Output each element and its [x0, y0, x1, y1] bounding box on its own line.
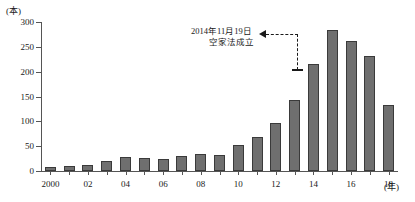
x-axis-tick-label: 18	[374, 180, 404, 189]
bar	[364, 56, 375, 171]
y-axis-tick	[36, 72, 41, 73]
x-axis-tick-label: 10	[223, 180, 253, 189]
bar	[308, 64, 319, 171]
x-axis-tick-label: 16	[336, 180, 366, 189]
x-axis-tick	[389, 171, 390, 175]
x-axis-tick	[220, 171, 221, 175]
x-axis-tick	[201, 171, 202, 175]
y-axis-tick-label: 200	[6, 68, 34, 77]
bar	[252, 137, 263, 171]
x-axis-tick	[144, 171, 145, 175]
x-axis-tick-label: 04	[111, 180, 141, 189]
annotation-line-1: 2014年11月19日	[191, 26, 252, 37]
y-axis-tick	[36, 146, 41, 147]
annotation-leader-vertical	[297, 34, 298, 70]
x-axis-tick	[351, 171, 352, 175]
bar	[120, 157, 131, 171]
y-axis-tick	[36, 22, 41, 23]
x-axis-tick	[107, 171, 108, 175]
bar-chart: (本) (年) 050100150200250300 2000020406081…	[0, 0, 415, 202]
x-axis-tick	[163, 171, 164, 175]
bar	[383, 105, 394, 171]
x-axis-tick	[238, 171, 239, 175]
bar	[233, 145, 244, 171]
bar	[327, 30, 338, 171]
x-axis-tick-label: 06	[148, 180, 178, 189]
bar	[139, 158, 150, 171]
x-axis-tick-label: 02	[73, 180, 103, 189]
bar	[64, 166, 75, 171]
x-axis-tick-label: 08	[186, 180, 216, 189]
bar	[270, 123, 281, 171]
bar	[346, 41, 357, 171]
y-axis-tick	[36, 97, 41, 98]
x-axis-tick-label: 12	[261, 180, 291, 189]
x-axis-tick-label: 14	[298, 180, 328, 189]
y-axis-line	[41, 22, 42, 172]
y-axis-tick-label: 150	[6, 93, 34, 102]
x-axis-tick	[69, 171, 70, 175]
x-axis-tick	[88, 171, 89, 175]
y-axis-tick-label: 250	[6, 43, 34, 52]
annotation-leader-cap	[292, 69, 303, 71]
annotation-arrow-icon	[259, 30, 266, 38]
bar	[101, 161, 112, 171]
x-axis-tick	[50, 171, 51, 175]
x-axis-tick-label: 2000	[35, 180, 65, 189]
x-axis-tick	[295, 171, 296, 175]
y-axis-tick	[36, 121, 41, 122]
x-axis-tick	[276, 171, 277, 175]
bar	[195, 154, 206, 171]
x-axis-tick	[370, 171, 371, 175]
x-axis-tick	[257, 171, 258, 175]
y-axis-tick-label: 100	[6, 117, 34, 126]
y-axis-tick-label: 50	[6, 142, 34, 151]
y-axis-unit-label: (本)	[6, 4, 21, 17]
y-axis-tick	[36, 47, 41, 48]
x-axis-tick	[332, 171, 333, 175]
bar	[82, 165, 93, 171]
bar	[45, 167, 56, 171]
y-axis-tick-label: 0	[6, 167, 34, 176]
bar	[214, 155, 225, 171]
bar	[289, 100, 300, 171]
y-axis-tick-label: 300	[6, 18, 34, 27]
bar	[158, 159, 169, 171]
bar	[176, 156, 187, 171]
x-axis-tick	[126, 171, 127, 175]
x-axis-tick	[313, 171, 314, 175]
annotation-leader-horizontal	[266, 34, 298, 35]
x-axis-tick	[182, 171, 183, 175]
y-axis-tick	[36, 171, 41, 172]
annotation-line-2: 空家法成立	[209, 37, 254, 48]
